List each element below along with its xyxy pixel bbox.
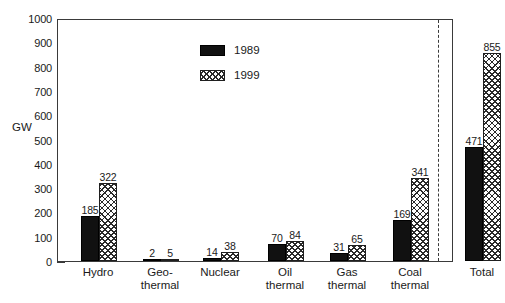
bar-value-label: 70: [271, 232, 282, 244]
bar-value-label: 38: [224, 240, 235, 252]
bar-1999-hydro: 322: [99, 183, 117, 261]
bar-1989-geo-thermal: 2: [143, 259, 161, 261]
y-axis-tick-label: 600: [34, 110, 52, 122]
x-axis-label-total: Total: [438, 266, 505, 279]
legend-item-1999: 1999: [200, 67, 260, 83]
bar-1989-nuclear: 14: [203, 258, 221, 261]
bar-1989-gasthermal: 31: [330, 253, 348, 261]
bar-value-label: 84: [289, 229, 300, 241]
bar-value-label: 2: [149, 247, 155, 259]
bar-1989-hydro: 185: [81, 216, 99, 261]
bar-value-label: 65: [351, 233, 362, 245]
legend-label-1989: 1989: [234, 44, 260, 56]
legend: 1989 1999: [200, 42, 260, 92]
y-axis-tick-label: 800: [34, 62, 52, 74]
bar-value-label: 5: [167, 247, 173, 259]
bar-1989-oilthermal: 70: [268, 244, 286, 261]
plot-area: 18532225143870843165169341471855 1989 19…: [57, 19, 453, 262]
y-axis-title: GW: [12, 121, 32, 133]
bar-value-label: 471: [466, 135, 483, 147]
bar-1999-nuclear: 38: [221, 252, 239, 261]
bar-value-label: 185: [82, 204, 99, 216]
y-axis-tick-label: 1000: [28, 13, 52, 25]
legend-label-1999: 1999: [234, 69, 260, 81]
y-axis-tick-label: 500: [34, 135, 52, 147]
y-axis-tick-label: 0: [46, 256, 52, 268]
y-axis-tick-label: 100: [34, 232, 52, 244]
bar-1999-geo-thermal: 5: [161, 259, 179, 261]
bar-value-label: 14: [206, 246, 217, 258]
total-divider-line: [438, 20, 439, 261]
legend-swatch-1999: [200, 70, 225, 81]
bar-1989-total: 471: [465, 147, 483, 261]
bar-value-label: 322: [100, 171, 117, 183]
bar-value-label: 341: [412, 166, 429, 178]
bar-value-label: 31: [333, 241, 344, 253]
legend-item-1989: 1989: [200, 42, 260, 58]
bar-value-label: 169: [394, 208, 411, 220]
y-axis-tick-label: 200: [34, 207, 52, 219]
y-axis-tick-label: 700: [34, 86, 52, 98]
bar-1989-coalthermal: 169: [393, 220, 411, 261]
bar-1999-coalthermal: 341: [411, 178, 429, 261]
bar-1999-total: 855: [483, 53, 501, 261]
y-axis-tick-label: 300: [34, 183, 52, 195]
bar-value-label: 855: [484, 41, 501, 53]
y-axis-tick-mark: [57, 262, 65, 263]
y-axis-tick-label: 400: [34, 159, 52, 171]
bar-1999-oilthermal: 84: [286, 241, 304, 261]
bar-1999-gasthermal: 65: [348, 245, 366, 261]
y-axis-tick-label: 900: [34, 37, 52, 49]
legend-swatch-1989: [200, 45, 225, 56]
